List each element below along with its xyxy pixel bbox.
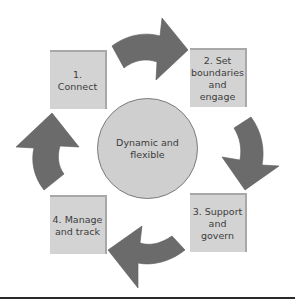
step-label-connect: 1. Connect (52, 69, 103, 93)
step-label-manage-track: 4. Manage and track (52, 214, 103, 238)
step-box-support-govern: 3. Support and govern (190, 193, 247, 252)
step-box-manage-track: 4. Manage and track (50, 195, 107, 254)
arrow-connect-to-set-boundaries-icon (112, 18, 188, 80)
step-label-support-govern: 3. Support and govern (192, 206, 243, 242)
arrow-manage-to-connect-icon (16, 113, 79, 190)
center-label: Dynamic and flexible (112, 137, 183, 161)
arrow-set-boundaries-to-support-icon (222, 117, 279, 190)
step-box-connect: 1. Connect (50, 50, 107, 109)
cycle-diagram: 1. Connect 2. Set boundaries and engage … (0, 0, 295, 306)
step-label-set-boundaries: 2. Set boundaries and engage (191, 55, 244, 103)
center-circle: Dynamic and flexible (97, 98, 198, 199)
bottom-rule-divider (0, 297, 295, 299)
arrow-support-to-manage-icon (108, 226, 185, 288)
step-box-set-boundaries: 2. Set boundaries and engage (190, 48, 247, 107)
